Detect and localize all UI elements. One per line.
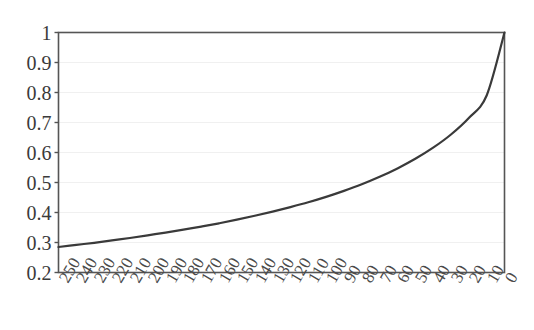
y-tick-label: 0.7 <box>27 113 52 133</box>
chart-figure: 10.90.80.70.60.50.40.30.2 25024023022021… <box>0 0 534 330</box>
y-tick-label: 0.6 <box>27 143 52 163</box>
y-tick-label: 0.5 <box>27 173 52 193</box>
y-tick-label: 0.2 <box>27 263 52 283</box>
gridlines-group <box>59 63 505 243</box>
y-tick-label: 1 <box>42 23 52 43</box>
data-line-series-curve <box>59 33 505 248</box>
y-tick-label: 0.8 <box>27 83 52 103</box>
y-tick-label: 0.4 <box>27 203 52 223</box>
y-tick-label: 0.9 <box>27 53 52 73</box>
y-tick-label: 0.3 <box>27 233 52 253</box>
